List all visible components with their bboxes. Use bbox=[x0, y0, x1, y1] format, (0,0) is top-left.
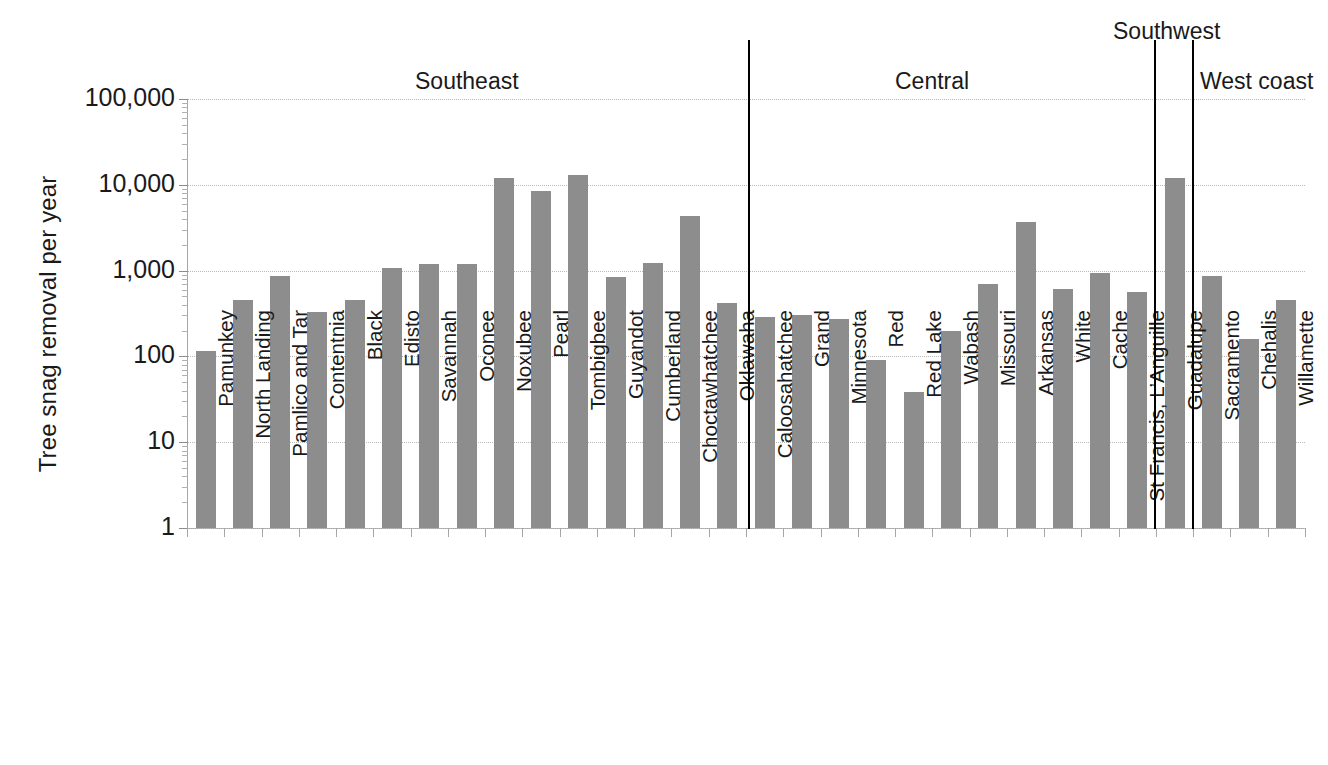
x-axis-label: St Francis, L’Anguille bbox=[1145, 310, 1169, 540]
y-tick-minor bbox=[182, 315, 188, 316]
y-tick-mark bbox=[179, 99, 188, 100]
y-tick-minor bbox=[182, 305, 188, 306]
x-axis-label: Contentnia bbox=[325, 310, 349, 540]
y-tick-minor bbox=[182, 370, 188, 371]
x-axis-label: Choctawhatchee bbox=[698, 310, 722, 540]
y-tick-minor bbox=[182, 112, 188, 113]
y-tick-minor bbox=[182, 502, 188, 503]
region-label: West coast bbox=[1200, 68, 1313, 95]
x-axis-label: North Landing bbox=[251, 310, 275, 540]
y-tick-label: 1,000 bbox=[35, 257, 175, 282]
x-axis-label: Willamette bbox=[1294, 310, 1318, 540]
y-tick-minor bbox=[182, 219, 188, 220]
y-tick-label: 100,000 bbox=[35, 85, 175, 110]
y-tick-mark bbox=[179, 271, 188, 272]
x-axis-label: Tombigbee bbox=[586, 310, 610, 540]
x-axis-label: Grand bbox=[810, 310, 834, 540]
y-tick-minor bbox=[182, 382, 188, 383]
x-tick-mark bbox=[187, 528, 188, 537]
y-tick-minor bbox=[182, 230, 188, 231]
x-axis-label: Red Lake bbox=[922, 310, 946, 540]
y-tick-minor bbox=[182, 245, 188, 246]
x-axis-label: Savannah bbox=[437, 310, 461, 540]
x-axis-label: Noxubee bbox=[512, 310, 536, 540]
region-divider bbox=[1192, 40, 1194, 529]
y-tick-minor bbox=[182, 284, 188, 285]
y-tick-mark bbox=[179, 442, 188, 443]
gridline bbox=[187, 185, 1305, 186]
x-axis-label: Guadalupe bbox=[1183, 310, 1207, 540]
y-tick-minor bbox=[182, 103, 188, 104]
x-axis-label: Chehalis bbox=[1257, 310, 1281, 540]
y-tick-minor bbox=[182, 487, 188, 488]
x-axis-label: Minnesota bbox=[847, 310, 871, 540]
y-tick-minor bbox=[182, 144, 188, 145]
y-tick-label: 10,000 bbox=[35, 171, 175, 196]
y-tick-minor bbox=[182, 451, 188, 452]
y-tick-minor bbox=[182, 331, 188, 332]
x-axis-label: Wabash bbox=[959, 310, 983, 540]
y-tick-label: 1 bbox=[35, 514, 175, 539]
bar[interactable] bbox=[196, 351, 216, 528]
x-axis-label: Pamunkey bbox=[214, 310, 238, 540]
x-axis-label: Caloosahatchee bbox=[773, 310, 797, 540]
y-tick-minor bbox=[182, 159, 188, 160]
y-tick-minor bbox=[182, 198, 188, 199]
y-tick-minor bbox=[182, 401, 188, 402]
x-axis-label: Pamlico and Tar bbox=[288, 310, 312, 540]
tree-snag-removal-bar-chart: Tree snag removal per year 100,00010,000… bbox=[0, 0, 1328, 765]
y-tick-minor bbox=[182, 455, 188, 456]
y-tick-label: 10 bbox=[35, 428, 175, 453]
y-tick-minor bbox=[182, 365, 188, 366]
y-tick-minor bbox=[182, 468, 188, 469]
region-divider bbox=[748, 40, 750, 529]
y-tick-minor bbox=[182, 279, 188, 280]
y-tick-minor bbox=[182, 275, 188, 276]
x-axis-label: Oconee bbox=[475, 310, 499, 540]
region-divider bbox=[1154, 40, 1156, 529]
x-axis-label: Black bbox=[363, 310, 387, 540]
x-axis-label: Pearl bbox=[549, 310, 573, 540]
y-tick-label: 100 bbox=[35, 342, 175, 367]
gridline bbox=[187, 99, 1305, 100]
y-tick-minor bbox=[182, 290, 188, 291]
x-axis-label: Red bbox=[884, 310, 908, 540]
y-tick-minor bbox=[182, 133, 188, 134]
x-axis-label: Edisto bbox=[400, 310, 424, 540]
x-axis-label: Guyandot bbox=[624, 310, 648, 540]
y-tick-minor bbox=[182, 118, 188, 119]
y-tick-minor bbox=[182, 461, 188, 462]
y-tick-mark bbox=[179, 356, 188, 357]
gridline bbox=[187, 271, 1305, 272]
y-tick-minor bbox=[182, 476, 188, 477]
y-tick-minor bbox=[182, 107, 188, 108]
x-axis-label: Arkansas bbox=[1034, 310, 1058, 540]
x-axis-label: Sacramento bbox=[1220, 310, 1244, 540]
y-tick-minor bbox=[182, 446, 188, 447]
y-tick-minor bbox=[182, 125, 188, 126]
y-tick-minor bbox=[182, 360, 188, 361]
x-axis-label: Cache bbox=[1108, 310, 1132, 540]
y-tick-mark bbox=[179, 185, 188, 186]
y-tick-minor bbox=[182, 296, 188, 297]
y-tick-minor bbox=[182, 375, 188, 376]
region-label: Central bbox=[895, 68, 969, 95]
region-label: Southeast bbox=[415, 68, 519, 95]
y-tick-minor bbox=[182, 193, 188, 194]
region-label: Southwest bbox=[1113, 18, 1220, 45]
y-tick-minor bbox=[182, 204, 188, 205]
x-axis-label: White bbox=[1071, 310, 1095, 540]
y-tick-minor bbox=[182, 416, 188, 417]
y-tick-minor bbox=[182, 189, 188, 190]
x-axis-label: Missouri bbox=[996, 310, 1020, 540]
y-tick-minor bbox=[182, 391, 188, 392]
y-tick-minor bbox=[182, 211, 188, 212]
x-axis-label: Cumberland bbox=[661, 310, 685, 540]
